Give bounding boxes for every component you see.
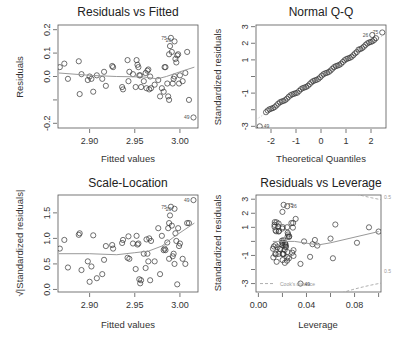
svg-text:0.04: 0.04 — [298, 300, 316, 310]
data-points — [57, 198, 196, 287]
x-axis-label: Leverage — [298, 319, 338, 330]
svg-text:1: 1 — [343, 136, 348, 146]
panel-title: Residuals vs Fitted — [77, 5, 178, 19]
svg-text:-3: -3 — [240, 122, 250, 130]
panel-residuals-vs-leverage: Residuals vs Leverage 0.000.040.08 -3-11… — [212, 176, 391, 330]
x-ticks: 2.902.953.00 — [81, 129, 189, 146]
svg-text:0: 0 — [318, 136, 323, 146]
x-ticks: 0.000.040.08 — [250, 293, 379, 310]
svg-text:49: 49 — [184, 114, 190, 120]
panel-scale-location: Scale-Location 2.902.953.00 0.00.51.01.5… — [14, 176, 198, 330]
panel-title: Normal Q-Q — [289, 5, 354, 19]
svg-text:75: 75 — [373, 29, 379, 35]
svg-text:2: 2 — [240, 41, 250, 46]
data-points — [57, 35, 196, 120]
svg-text:3.00: 3.00 — [171, 136, 189, 146]
svg-text:0.5: 0.5 — [384, 194, 391, 200]
y-axis-label: Standardized residuals — [212, 194, 223, 291]
svg-text:49: 49 — [184, 197, 190, 203]
y-ticks: -3-1123 — [240, 197, 255, 288]
y-axis-label: Standardized residuals — [212, 28, 223, 125]
svg-text:26: 26 — [363, 32, 369, 38]
svg-text:0.2: 0.2 — [42, 23, 52, 36]
svg-text:-1: -1 — [292, 136, 300, 146]
svg-text:3.00: 3.00 — [171, 300, 189, 310]
svg-text:-3: -3 — [240, 280, 250, 288]
y-ticks: -0.20.00.10.2 — [42, 23, 57, 131]
diagnostic-plots-figure: Residuals vs Fitted 2.902.953.00 -0.20.0… — [0, 0, 410, 343]
x-axis-label: Theoretical Quantiles — [276, 153, 366, 164]
panel-title: Scale-Location — [88, 176, 167, 190]
svg-text:-2: -2 — [267, 136, 275, 146]
svg-text:2.90: 2.90 — [81, 136, 99, 146]
svg-text:Cook's distance: Cook's distance — [280, 281, 315, 287]
panel-title: Residuals vs Leverage — [260, 176, 382, 190]
x-axis-label: Fitted values — [101, 319, 155, 330]
svg-text:1.0: 1.0 — [42, 232, 52, 245]
y-ticks: 0.00.51.01.5 — [42, 207, 57, 296]
svg-text:1.5: 1.5 — [42, 207, 52, 220]
svg-text:2: 2 — [368, 136, 373, 146]
svg-text:2.90: 2.90 — [81, 300, 99, 310]
y-ticks: -3-1123 — [240, 24, 255, 130]
svg-text:3: 3 — [240, 24, 250, 29]
y-axis-label: √|Standardized residuals| — [14, 190, 25, 297]
svg-text:2.95: 2.95 — [126, 136, 144, 146]
panel-residuals-vs-fitted: Residuals vs Fitted 2.902.953.00 -0.20.0… — [14, 5, 198, 164]
svg-text:26: 26 — [291, 203, 297, 209]
svg-text:26: 26 — [166, 206, 172, 212]
svg-text:0.0: 0.0 — [42, 70, 52, 83]
svg-text:2: 2 — [240, 211, 250, 216]
svg-text:0.5: 0.5 — [42, 258, 52, 271]
svg-text:3: 3 — [240, 197, 250, 202]
svg-text:1: 1 — [240, 57, 250, 62]
svg-text:0.08: 0.08 — [346, 300, 364, 310]
x-ticks: 2.902.953.00 — [81, 293, 189, 310]
y-axis-label: Residuals — [14, 56, 25, 98]
x-axis-label: Fitted values — [101, 153, 155, 164]
svg-text:-1: -1 — [240, 251, 250, 259]
svg-text:2.95: 2.95 — [126, 300, 144, 310]
data-points — [260, 180, 381, 303]
data-points — [256, 30, 386, 129]
svg-text:26: 26 — [166, 37, 172, 43]
svg-text:-1: -1 — [240, 89, 250, 97]
panel-normal-qq: Normal Q-Q -2-1012 -3-1123 Theoretical Q… — [212, 5, 386, 164]
svg-text:0.5: 0.5 — [384, 268, 391, 274]
svg-text:49: 49 — [304, 281, 310, 287]
svg-text:0.1: 0.1 — [42, 47, 52, 60]
svg-text:-0.2: -0.2 — [42, 116, 52, 132]
svg-text:49: 49 — [264, 123, 270, 129]
svg-text:1: 1 — [240, 225, 250, 230]
svg-text:0.00: 0.00 — [250, 300, 268, 310]
svg-text:0.0: 0.0 — [42, 283, 52, 296]
x-ticks: -2-1012 — [267, 129, 374, 146]
